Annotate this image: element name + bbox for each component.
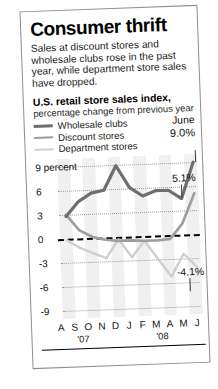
axis-baseline-rule xyxy=(42,344,206,351)
x-axis-year-label-2008: '08 xyxy=(156,330,169,341)
x-axis-tick-label: O xyxy=(84,321,92,332)
x-axis-tick-label: M xyxy=(152,318,161,329)
line-discount-stores xyxy=(65,193,196,243)
june-callout: June 9.0% xyxy=(169,114,195,139)
x-axis-tick-label: S xyxy=(71,321,78,332)
value-label-department: -4.1% xyxy=(177,266,205,278)
infographic-card: Consumer thrift Sales at discount stores… xyxy=(20,5,211,369)
value-label-wholesale: 5.1% xyxy=(172,172,196,184)
x-axis-tick-label: N xyxy=(98,320,106,331)
graphic-stage: Consumer thrift Sales at discount stores… xyxy=(0,0,218,389)
x-axis-tick-label: J xyxy=(126,319,131,330)
x-axis-tick-label: A xyxy=(58,322,65,333)
x-axis-tick-label: M xyxy=(179,317,188,328)
x-axis-tick-label: D xyxy=(112,320,120,331)
x-axis-tick-label: J xyxy=(194,317,199,328)
legend-swatch-icon xyxy=(34,137,53,140)
legend-label: Wholesale clubs xyxy=(58,119,128,131)
x-axis-tick-label: F xyxy=(139,319,146,330)
chart-plot-area: 9 percent 6 3 0 -3 -6 -9 5.1% -4.1% xyxy=(35,154,203,320)
legend-label: Department stores xyxy=(58,141,137,153)
value-tick-icon xyxy=(195,150,196,162)
chart-legend: Wholesale clubs Discount stores Departme… xyxy=(34,115,185,155)
line-wholesale-clubs xyxy=(64,162,195,216)
x-axis-year-label-2007: '07 xyxy=(77,333,90,344)
page-title: Consumer thrift xyxy=(30,14,193,39)
x-axis-tick-label: A xyxy=(166,318,173,329)
x-axis: A S O N D J F M A M J '07 '08 xyxy=(61,317,207,335)
callout-period: June xyxy=(169,114,195,127)
legend-swatch-icon xyxy=(35,148,54,151)
callout-top-value: 9.0% xyxy=(170,126,196,139)
legend-swatch-icon xyxy=(34,125,53,129)
deck-text: Sales at discount stores and wholesale c… xyxy=(31,37,198,89)
